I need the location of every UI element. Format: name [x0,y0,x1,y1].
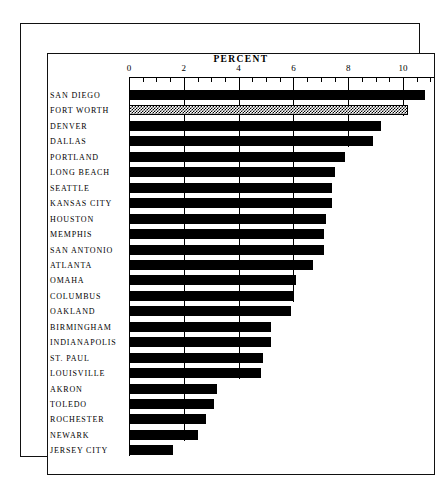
category-label: ATLANTA [50,259,126,273]
category-label: MEMPHIS [50,228,126,242]
category-label: SAN DIEGO [50,89,126,103]
bar-seattle [129,183,332,193]
bar-toledo [129,399,214,409]
category-label: DENVER [50,120,126,134]
bar-row: JERSEY CITY [48,443,434,458]
category-label: FORT WORTH [50,104,126,118]
bar-row: SAN ANTONIO [48,243,434,258]
bar-louisville [129,368,261,378]
bar-row: ATLANTA [48,258,434,273]
bar-san-antonio [129,245,324,255]
category-label: ST. PAUL [50,352,126,366]
bar-long-beach [129,167,335,177]
category-label: HOUSTON [50,213,126,227]
bar-akron [129,384,217,394]
bar-portland [129,152,345,162]
bar-row: LONG BEACH [48,165,434,180]
category-label: DALLAS [50,135,126,149]
bar-row: INDIANAPOLIS [48,335,434,350]
category-label: JERSEY CITY [50,444,126,458]
bar-newark [129,430,198,440]
bar-oakland [129,306,291,316]
category-label: LOUISVILLE [50,367,126,381]
bar-columbus [129,291,293,301]
bar-row: DENVER [48,119,434,134]
category-label: BIRMINGHAM [50,321,126,335]
bar-row: PORTLAND [48,150,434,165]
category-label: COLUMBUS [50,290,126,304]
category-label: TOLEDO [50,398,126,412]
category-label: INDIANAPOLIS [50,336,126,350]
bar-memphis [129,229,324,239]
bar-row: ST. PAUL [48,351,434,366]
category-label: SAN ANTONIO [50,244,126,258]
figure: PERCENT 0246810 SAN DIEGOFORT WORTHDENVE… [0,0,438,496]
bar-row: SAN DIEGO [48,88,434,103]
bar-san-diego [129,90,425,100]
bar-denver [129,121,381,131]
bar-row: FORT WORTH [48,103,434,118]
category-label: ROCHESTER [50,413,126,427]
category-label: OAKLAND [50,305,126,319]
bar-birmingham [129,322,271,332]
bar-dallas [129,136,373,146]
category-label: SEATTLE [50,182,126,196]
category-label: KANSAS CITY [50,197,126,211]
bar-st-paul [129,353,263,363]
bar-row: BIRMINGHAM [48,320,434,335]
bar-omaha [129,275,296,285]
bar-row: DALLAS [48,134,434,149]
bar-row: NEWARK [48,428,434,443]
bar-row: LOUISVILLE [48,366,434,381]
bar-kansas-city [129,198,332,208]
category-label: LONG BEACH [50,166,126,180]
bar-row: TOLEDO [48,397,434,412]
plot-area: PERCENT 0246810 SAN DIEGOFORT WORTHDENVE… [48,54,434,474]
figure-outer-border: PERCENT 0246810 SAN DIEGOFORT WORTHDENVE… [20,23,420,457]
category-label: PORTLAND [50,151,126,165]
bar-row: HOUSTON [48,212,434,227]
bar-houston [129,214,326,224]
bar-row: KANSAS CITY [48,196,434,211]
bar-row: ROCHESTER [48,412,434,427]
category-label: AKRON [50,383,126,397]
bar-indianapolis [129,337,271,347]
bar-atlanta [129,260,313,270]
bar-row: OMAHA [48,273,434,288]
bar-row: COLUMBUS [48,289,434,304]
category-label: OMAHA [50,274,126,288]
bar-row: MEMPHIS [48,227,434,242]
figure-inner-border: PERCENT 0246810 SAN DIEGOFORT WORTHDENVE… [47,53,435,475]
bar-row: SEATTLE [48,181,434,196]
bar-rochester [129,414,206,424]
bar-row: OAKLAND [48,304,434,319]
bar-fort-worth [129,105,408,115]
bar-row: AKRON [48,382,434,397]
category-label: NEWARK [50,429,126,443]
bar-rows: SAN DIEGOFORT WORTHDENVERDALLASPORTLANDL… [48,54,434,474]
bar-jersey-city [129,445,173,455]
